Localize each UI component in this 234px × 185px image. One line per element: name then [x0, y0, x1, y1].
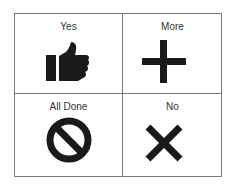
cell-yes[interactable]: Yes — [15, 14, 122, 93]
plus-icon — [142, 40, 186, 83]
prohibited-icon — [46, 117, 92, 163]
cell-more[interactable]: More — [123, 14, 222, 93]
thumbs-up-icon — [46, 42, 90, 82]
communication-board: Yes More All Done No — [14, 13, 222, 177]
cell-label: All Done — [15, 101, 122, 113]
x-icon — [145, 124, 183, 162]
cell-all-done[interactable]: All Done — [15, 94, 122, 177]
cell-label: Yes — [15, 21, 122, 33]
cell-label: No — [123, 101, 222, 113]
cell-label: More — [123, 21, 222, 33]
cell-no[interactable]: No — [123, 94, 222, 177]
